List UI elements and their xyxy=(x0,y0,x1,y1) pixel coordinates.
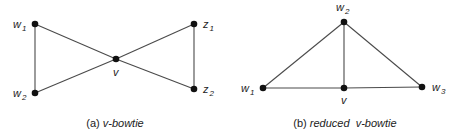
bowtie-figure: w1 w2 v z1 z2 (a) v-bowtie w2 w1 v w3 (b… xyxy=(0,0,456,134)
figure-b-reduced-v-bowtie: w2 w1 v w3 (b) reduced v-bowtie xyxy=(241,1,446,129)
node-z1 xyxy=(191,21,198,28)
node-w2 xyxy=(32,90,39,97)
label-w1: w1 xyxy=(241,82,254,97)
edge-v-z1 xyxy=(116,24,194,59)
figure-a-v-bowtie: w1 w2 v z1 z2 (a) v-bowtie xyxy=(13,18,215,129)
label-w1: w1 xyxy=(13,18,26,33)
label-w2: w2 xyxy=(336,1,350,16)
caption-a: (a) v-bowtie xyxy=(86,117,143,129)
edge-w2-v xyxy=(35,59,116,93)
node-z2 xyxy=(191,86,198,93)
edge-v-w3 xyxy=(344,87,422,88)
label-v: v xyxy=(113,66,120,78)
edge-w2-w1 xyxy=(263,22,344,88)
node-w3 xyxy=(419,84,426,91)
node-w1 xyxy=(260,85,267,92)
label-w2: w2 xyxy=(13,87,27,102)
label-w3: w3 xyxy=(432,81,446,96)
node-v xyxy=(341,85,348,92)
caption-b: (b) reduced v-bowtie xyxy=(293,117,396,129)
edge-w2-w3 xyxy=(344,22,422,87)
label-z2: z2 xyxy=(202,83,215,98)
label-v: v xyxy=(341,94,348,106)
node-w2 xyxy=(341,19,348,26)
node-v xyxy=(113,56,120,63)
edge-v-z2 xyxy=(116,59,194,89)
label-z1: z1 xyxy=(202,18,214,33)
edge-w1-v xyxy=(35,24,116,59)
node-w1 xyxy=(32,21,39,28)
